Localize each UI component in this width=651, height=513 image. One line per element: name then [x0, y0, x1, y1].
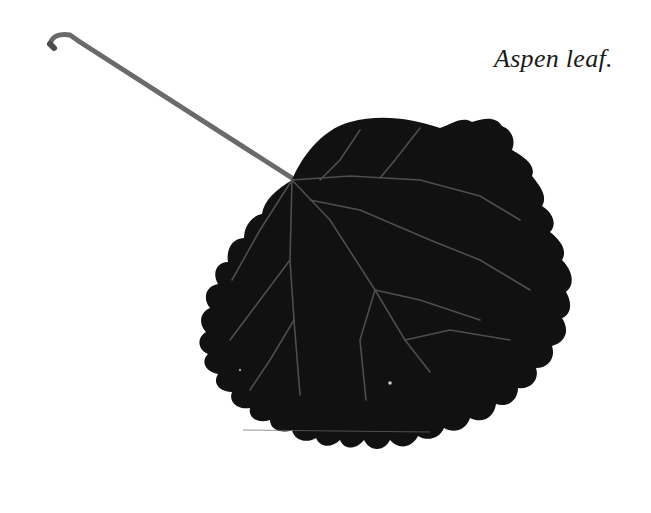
leaf-stem: [50, 34, 292, 178]
figure: Aspen leaf.: [0, 0, 651, 513]
leaf-blade: [199, 118, 571, 449]
aspen-leaf-image: [0, 0, 651, 513]
figure-caption: Aspen leaf.: [494, 44, 613, 74]
